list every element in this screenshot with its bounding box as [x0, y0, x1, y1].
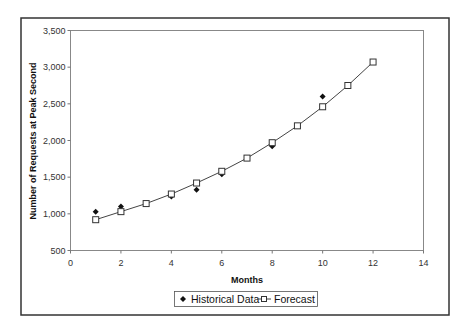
y-axis-label: Number of Requests at Peak Second	[28, 62, 38, 219]
x-tick-label: 8	[270, 258, 275, 268]
x-tick-label: 12	[368, 258, 378, 268]
data-point	[269, 140, 275, 146]
y-tick-label: 2,500	[43, 99, 66, 109]
data-point	[118, 209, 124, 215]
data-point	[294, 123, 300, 129]
x-tick-label: 0	[68, 258, 73, 268]
x-axis-label: Months	[231, 275, 263, 285]
svg-text:Historical Data: Historical Data	[191, 293, 259, 305]
data-point	[194, 180, 200, 186]
y-tick-label: 500	[50, 246, 65, 256]
y-tick-label: 3,000	[43, 62, 66, 72]
y-tick-label: 2,000	[43, 136, 66, 146]
data-point	[320, 104, 326, 110]
x-tick-label: 14	[418, 258, 428, 268]
y-tick-label: 1,000	[43, 209, 66, 219]
data-point	[168, 191, 174, 197]
chart: 5001,0001,5002,0002,5003,0003,500 024681…	[0, 0, 471, 333]
x-tick-label: 6	[219, 258, 224, 268]
svg-text:Forecast: Forecast	[274, 293, 315, 305]
data-point	[244, 155, 250, 161]
data-point	[143, 201, 149, 207]
legend-item-historical: Historical Data	[180, 293, 259, 305]
x-tick-label: 4	[169, 258, 174, 268]
y-tick-label: 1,500	[43, 172, 66, 182]
legend: Historical Data Forecast	[175, 292, 318, 307]
x-tick-label: 10	[318, 258, 328, 268]
x-tick-label: 2	[118, 258, 123, 268]
data-point	[93, 217, 99, 223]
data-point	[219, 168, 225, 174]
data-point	[370, 59, 376, 65]
square-marker-icon	[262, 297, 267, 302]
data-point	[345, 83, 351, 89]
y-tick-label: 3,500	[43, 26, 66, 36]
